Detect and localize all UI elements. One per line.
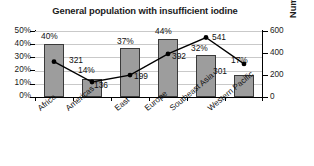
- line-value-label: 541: [212, 33, 226, 42]
- bar-value-label: 40%: [41, 32, 58, 41]
- bar-value-label: 14%: [78, 66, 95, 75]
- x-axis-tick: [35, 97, 36, 101]
- bar-value-label: 17%: [231, 56, 248, 65]
- chart-title: General population with insufficient iod…: [0, 5, 290, 16]
- y2-axis-tick: [263, 97, 268, 98]
- bar-value-label: 32%: [191, 44, 208, 53]
- x-axis-tick: [111, 97, 112, 101]
- y-axis-tick-label: 40%: [15, 40, 31, 48]
- y2-axis-tick-label: 400: [270, 49, 284, 57]
- line-value-label: 321: [69, 56, 83, 65]
- y-axis-tick-label: 10%: [15, 79, 31, 87]
- line-marker[interactable]: [128, 73, 133, 78]
- bar-value-label: 37%: [117, 37, 134, 46]
- line-value-label: 199: [134, 72, 148, 81]
- line-value-label: 301: [213, 67, 227, 76]
- y2-axis-tick-label: 200: [270, 71, 284, 79]
- x-axis-category-east: East: [113, 95, 131, 112]
- y2-axis-tick: [263, 75, 268, 76]
- y2-axis-tick: [263, 31, 268, 32]
- y-axis-tick-label: 20%: [15, 66, 31, 74]
- line-marker[interactable]: [52, 59, 57, 64]
- y2-axis-tick-label: 600: [270, 27, 284, 35]
- line-value-label: 136: [94, 81, 108, 90]
- y-axis-tick-label: 0%: [19, 92, 31, 100]
- chart-container: General population with insufficient iod…: [0, 0, 314, 166]
- line-value-label: 392: [172, 52, 186, 61]
- y-axis-tick-label: 50%: [15, 27, 31, 35]
- y2-axis-tick-label: 0: [270, 93, 275, 101]
- line-marker[interactable]: [166, 52, 171, 57]
- y-axis-tick-label: 30%: [15, 53, 31, 61]
- y2-axis-line: [262, 30, 263, 98]
- y2-axis-title: Number, millions: [288, 0, 298, 18]
- line-marker[interactable]: [204, 35, 209, 40]
- bar-value-label: 44%: [155, 27, 172, 36]
- y2-axis-tick: [263, 53, 268, 54]
- x-axis-tick: [262, 97, 263, 101]
